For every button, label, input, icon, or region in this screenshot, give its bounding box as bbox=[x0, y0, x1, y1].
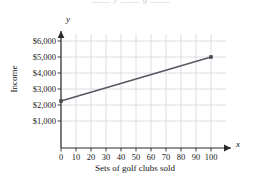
data-point-marker bbox=[59, 99, 63, 103]
vertical-gridlines bbox=[61, 34, 211, 148]
y-axis-variable-label: y bbox=[66, 14, 70, 24]
y-axis-arrowhead bbox=[58, 31, 65, 38]
horizontal-gridlines bbox=[61, 41, 226, 121]
y-tick-label: $1,000 bbox=[14, 116, 56, 126]
y-tick-label: $4,000 bbox=[14, 68, 56, 78]
y-tick-label: $2,000 bbox=[14, 100, 56, 110]
y-tick-label: $6,000 bbox=[14, 36, 56, 46]
y-tick-label: $3,000 bbox=[14, 84, 56, 94]
x-axis-variable-label: x bbox=[236, 139, 240, 149]
x-axis-arrowhead bbox=[224, 145, 231, 152]
y-tick-label: $5,000 bbox=[14, 52, 56, 62]
chart-figure: ____ y ____ g ____ $1,000$2,000$3,000$4,… bbox=[0, 0, 261, 180]
data-point-marker bbox=[209, 55, 213, 59]
x-axis-title: Sets of golf clubs sold bbox=[40, 163, 230, 173]
y-axis-title: Income bbox=[9, 53, 19, 105]
x-tick-label: 100 bbox=[198, 152, 224, 162]
